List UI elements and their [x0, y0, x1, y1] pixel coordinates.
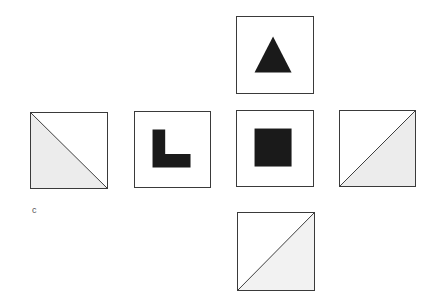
face-l-shape [134, 111, 211, 188]
triangle-icon [237, 17, 313, 93]
diagonal-shade-icon [31, 113, 107, 188]
face-left-diagonal [30, 112, 108, 189]
face-right-diagonal [339, 110, 416, 187]
face-top-triangle [236, 16, 314, 94]
face-bottom-diagonal [237, 212, 315, 291]
face-center-square [236, 110, 314, 187]
diagonal-shade-icon [238, 213, 314, 290]
option-label: c [32, 205, 37, 215]
l-shape-icon [135, 112, 210, 187]
square-icon [237, 111, 313, 186]
diagonal-shade-icon [340, 111, 415, 186]
